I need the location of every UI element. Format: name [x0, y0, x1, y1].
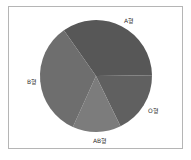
- label-a: A형: [124, 17, 134, 24]
- label-ab: AB형: [93, 137, 107, 144]
- pie-slices: [40, 20, 152, 132]
- label-o: O형: [148, 107, 159, 114]
- label-b: B형: [27, 78, 37, 85]
- pie-chart: A형 O형 AB형 B형: [0, 0, 191, 160]
